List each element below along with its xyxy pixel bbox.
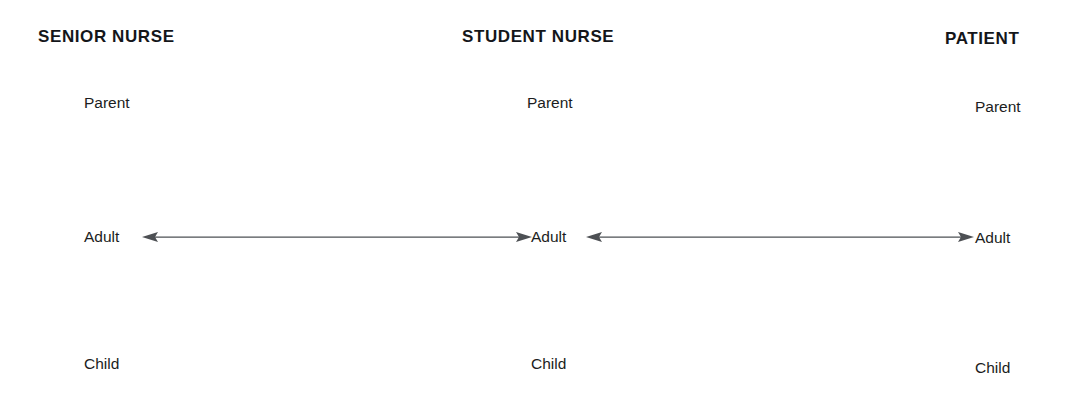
patient-adult-state: Adult (975, 230, 1010, 246)
student-nurse-adult-state: Adult (531, 229, 566, 245)
patient-parent-state: Parent (975, 99, 1021, 115)
patient-child-state: Child (975, 360, 1010, 376)
double-headed-arrow-icon-student-patient (586, 222, 974, 252)
ego-state-transaction-diagram: SENIOR NURSE STUDENT NURSE PATIENT Paren… (0, 0, 1067, 399)
column-header-patient: PATIENT (945, 30, 1019, 47)
column-header-student-nurse: STUDENT NURSE (462, 28, 614, 45)
double-headed-arrow-icon-senior-student (142, 222, 532, 252)
column-header-senior-nurse: SENIOR NURSE (38, 28, 175, 45)
senior-nurse-adult-state: Adult (84, 229, 119, 245)
senior-nurse-child-state: Child (84, 356, 119, 372)
student-nurse-parent-state: Parent (527, 95, 573, 111)
student-nurse-child-state: Child (531, 356, 566, 372)
senior-nurse-parent-state: Parent (84, 95, 130, 111)
